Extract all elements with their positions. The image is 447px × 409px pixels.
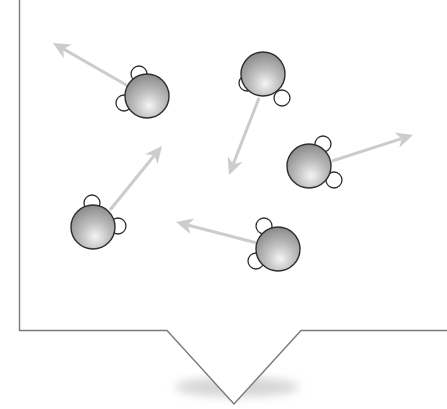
water-molecules-callout — [0, 0, 447, 409]
oxygen-atom-icon — [256, 227, 300, 271]
diagram-canvas — [0, 0, 447, 409]
oxygen-atom-icon — [71, 205, 115, 249]
velocity-arrow-icon — [228, 98, 259, 175]
velocity-arrow-icon — [332, 133, 413, 161]
molecule-3 — [287, 133, 413, 188]
oxygen-atom-icon — [241, 52, 285, 96]
oxygen-atom-icon — [287, 144, 331, 188]
oxygen-atom-icon — [125, 74, 169, 118]
molecule-2 — [228, 52, 290, 175]
hydrogen-atom-icon — [274, 90, 290, 106]
